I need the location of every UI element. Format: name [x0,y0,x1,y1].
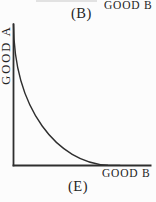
scanned-figure-page: GOOD B (B) GOOD A GOOD B (E) [0,0,156,202]
bottom-panel-caption: (E) [68,179,88,194]
indifference-curve [14,24,121,165]
y-axis-label: GOOD A [0,20,14,90]
x-axis-label: GOOD B [102,167,151,180]
